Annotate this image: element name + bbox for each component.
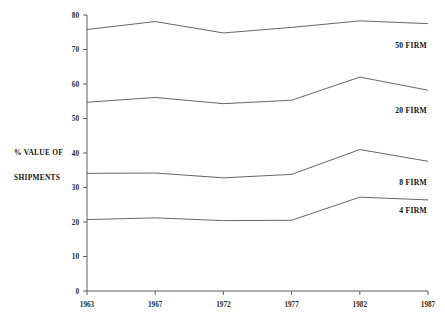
y-axis-tick-label: 50 xyxy=(72,115,80,123)
y-axis-tick-label: 40 xyxy=(72,150,80,158)
y-axis-tick-marks xyxy=(83,15,87,291)
x-axis-tick-label: 1963 xyxy=(80,301,95,309)
series-inline-labels: 50 FIRM20 FIRM8 FIRM4 FIRM xyxy=(395,41,427,215)
y-axis-tick-label: 10 xyxy=(72,253,80,261)
series-label-4-firm: 4 FIRM xyxy=(399,206,427,215)
y-axis-tick-label: 80 xyxy=(72,12,80,20)
x-axis-tick-marks xyxy=(87,291,428,295)
series-line-8-firm xyxy=(87,150,428,178)
x-axis-tick-labels: 196319671972197719821987 xyxy=(80,301,436,309)
y-axis-tick-label: 0 xyxy=(75,288,79,296)
chart-canvas: 01020304050607080 1963196719721977198219… xyxy=(0,0,445,325)
x-axis-tick-label: 1972 xyxy=(216,301,231,309)
y-axis-title-line2: SHIPMENTS xyxy=(14,173,60,182)
y-axis-tick-labels: 01020304050607080 xyxy=(72,12,80,296)
y-axis-tick-label: 70 xyxy=(72,46,80,54)
y-axis-tick-label: 20 xyxy=(72,219,80,227)
x-axis-tick-label: 1982 xyxy=(353,301,368,309)
line-chart: 01020304050607080 1963196719721977198219… xyxy=(0,0,445,325)
series-label-20-firm: 20 FIRM xyxy=(395,106,427,115)
y-axis-tick-label: 30 xyxy=(72,184,80,192)
x-axis-tick-label: 1977 xyxy=(284,301,299,309)
series-label-50-firm: 50 FIRM xyxy=(395,41,427,50)
x-axis-tick-label: 1967 xyxy=(148,301,163,309)
y-axis-title-line1: % VALUE OF xyxy=(14,148,63,157)
series-line-20-firm xyxy=(87,77,428,104)
series-label-8-firm: 8 FIRM xyxy=(399,178,427,187)
series-line-4-firm xyxy=(87,197,428,220)
y-axis-tick-label: 60 xyxy=(72,81,80,89)
series-lines xyxy=(87,21,428,221)
x-axis-tick-label: 1987 xyxy=(421,301,436,309)
series-line-50-firm xyxy=(87,21,428,33)
